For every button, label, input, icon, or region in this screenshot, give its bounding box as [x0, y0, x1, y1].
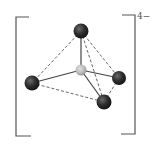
atoms: [25, 24, 127, 110]
tetrahedral-ion-diagram: 4−: [0, 0, 159, 167]
ligand-atom-bottom: [97, 95, 112, 110]
bond-center-left: [32, 70, 81, 83]
ligand-atom-right: [112, 71, 126, 85]
edge-top-left: [32, 31, 81, 83]
ligand-atom-left: [25, 76, 40, 91]
tetrahedron-edges: [32, 31, 119, 102]
central-atom: [76, 65, 87, 76]
ligand-atom-top: [74, 24, 89, 39]
edge-left-bottom: [32, 83, 104, 102]
bonds: [32, 31, 119, 102]
charge-label: 4−: [137, 11, 150, 21]
